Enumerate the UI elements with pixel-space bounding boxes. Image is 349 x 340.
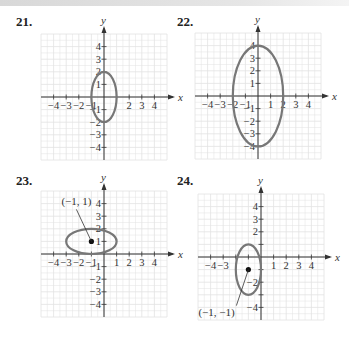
x-axis-arrow-icon	[168, 95, 175, 100]
y-tick-label: 2	[253, 226, 258, 237]
axes: xy	[195, 13, 337, 159]
y-axis-arrow-icon	[102, 183, 107, 190]
y-tick-label: 3	[250, 53, 255, 64]
axes: xy	[198, 174, 340, 320]
problem-21-panel: 21. xy−4−3−2−12344321−1−2−3−4	[0, 0, 174, 170]
y-tick-label: −3	[244, 128, 255, 139]
graph-21: xy−4−3−2−12344321−1−2−3−4	[0, 0, 174, 170]
y-tick-label: −4	[90, 142, 102, 153]
x-tick-label: 2	[284, 260, 289, 271]
y-tick-label: −2	[244, 116, 255, 127]
x-tick-label: −2	[73, 100, 84, 111]
x-tick-label: −2	[73, 257, 84, 268]
problem-24-panel: 24. xy−4−31234432−2−4(−1, −1)	[175, 170, 349, 340]
y-axis-label: y	[257, 174, 263, 186]
y-axis-arrow-icon	[259, 186, 264, 193]
x-tick-label: 3	[296, 260, 301, 271]
y-tick-label: 3	[96, 54, 101, 65]
y-tick-label: −1	[90, 261, 101, 272]
x-tick-label: 1	[271, 260, 276, 271]
x-tick-label: 4	[306, 99, 312, 110]
y-tick-label: 2	[250, 65, 255, 76]
y-axis-label: y	[100, 14, 106, 26]
problem-22-panel: 22. xy−4−3−2−112344321−1−2−3−4	[175, 0, 349, 170]
y-tick-label: −4	[247, 302, 259, 313]
y-tick-label: −2	[247, 277, 258, 288]
x-tick-label: −3	[215, 99, 226, 110]
y-tick-label: 4	[253, 201, 259, 212]
y-tick-label: 1	[96, 236, 101, 247]
graph-24: xy−4−31234432−2−4(−1, −1)	[175, 170, 349, 340]
x-tick-label: 4	[309, 260, 315, 271]
axes: xy	[41, 171, 183, 317]
x-axis-arrow-icon	[168, 252, 175, 257]
x-axis-arrow-icon	[322, 94, 329, 99]
x-axis-label: x	[334, 251, 340, 263]
y-tick-label: −3	[90, 129, 101, 140]
x-tick-label: 3	[139, 100, 144, 111]
y-tick-label: −2	[90, 117, 101, 128]
y-tick-label: −4	[90, 299, 102, 310]
x-tick-label: 4	[152, 100, 158, 111]
x-axis-arrow-icon	[325, 255, 332, 260]
y-tick-label: 1	[96, 79, 101, 90]
y-tick-label: 3	[253, 214, 258, 225]
y-tick-label: 3	[96, 211, 101, 222]
point-annotation: (−1, 1)	[61, 195, 91, 208]
graph-22: xy−4−3−2−112344321−1−2−3−4	[175, 0, 349, 170]
y-tick-label: 1	[250, 78, 255, 89]
y-tick-label: 4	[96, 198, 102, 209]
y-axis-arrow-icon	[256, 25, 261, 32]
x-tick-label: −3	[61, 257, 72, 268]
x-tick-label: −3	[218, 260, 229, 271]
x-tick-label: −4	[205, 260, 217, 271]
problem-23-panel: 23. xy−4−3−2−112344321−1−2−3−4(−1, 1)	[0, 170, 174, 340]
x-tick-label: −3	[61, 100, 72, 111]
x-tick-label: −4	[48, 257, 60, 268]
y-axis-label: y	[100, 171, 106, 183]
y-tick-label: 4	[96, 41, 102, 52]
x-tick-label: −4	[48, 100, 60, 111]
x-tick-label: 4	[152, 257, 158, 268]
point-annotation: (−1, −1)	[198, 306, 235, 319]
x-tick-label: 1	[114, 257, 119, 268]
y-axis-label: y	[254, 13, 260, 25]
y-tick-label: −2	[90, 274, 101, 285]
graph-23: xy−4−3−2−112344321−1−2−3−4(−1, 1)	[0, 170, 174, 340]
y-tick-label: −3	[90, 286, 101, 297]
y-axis-arrow-icon	[102, 26, 107, 33]
x-axis-label: x	[331, 90, 337, 102]
axes: xy	[41, 14, 183, 160]
x-tick-label: 2	[127, 257, 132, 268]
x-tick-label: 1	[268, 99, 273, 110]
x-tick-label: 3	[293, 99, 298, 110]
x-tick-label: −4	[202, 99, 214, 110]
x-tick-label: 3	[139, 257, 144, 268]
x-tick-label: 2	[127, 100, 132, 111]
y-tick-label: −1	[244, 103, 255, 114]
